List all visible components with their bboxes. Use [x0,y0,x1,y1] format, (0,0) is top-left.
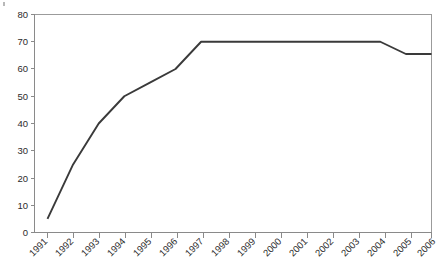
corner-artifact [3,2,5,6]
y-tick-label-30: 30 [17,145,28,156]
y-tick-label-80: 80 [17,9,28,20]
y-tick-label-50: 50 [17,91,28,102]
line-chart: 80 70 60 50 40 30 20 10 0 [0,0,446,280]
y-tick-label-40: 40 [17,118,28,129]
chart-svg: 80 70 60 50 40 30 20 10 0 [0,0,446,280]
y-tick-label-10: 10 [17,200,28,211]
y-tick-label-0: 0 [23,227,28,238]
y-axis-labels: 80 70 60 50 40 30 20 10 0 [17,9,28,238]
y-tick-label-60: 60 [17,63,28,74]
y-tick-label-70: 70 [17,36,28,47]
y-tick-label-20: 20 [17,173,28,184]
